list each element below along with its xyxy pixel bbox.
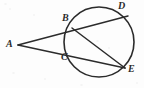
texture-fleck	[9, 8, 11, 10]
point-label-a: A	[6, 39, 13, 49]
point-label-e: E	[128, 64, 135, 74]
texture-fleck	[33, 14, 35, 16]
point-label-d: D	[118, 1, 125, 11]
texture-fleck	[96, 40, 99, 42]
secant-line-a-b-d	[18, 16, 128, 45]
point-label-c: C	[61, 52, 68, 62]
point-label-b: B	[62, 13, 69, 23]
texture-fleck	[80, 84, 83, 86]
texture-fleck	[44, 78, 46, 80]
geometry-canvas	[0, 0, 144, 88]
texture-fleck	[4, 3, 7, 5]
geometry-figure: A B C D E	[0, 0, 144, 88]
texture-fleck	[136, 82, 138, 84]
texture-fleck	[108, 47, 110, 49]
texture-fleck	[12, 72, 15, 74]
